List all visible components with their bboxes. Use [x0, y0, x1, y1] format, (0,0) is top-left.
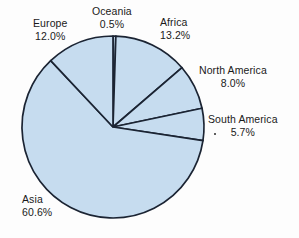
slice-label-africa: Africa 13.2% [160, 16, 190, 41]
slice-label-asia-name: Asia [22, 193, 52, 206]
slice-label-europe-name: Europe [33, 17, 67, 30]
slice-label-africa-percent: 13.2% [160, 29, 190, 42]
slice-label-europe-percent: 12.0% [33, 30, 67, 43]
slice-label-asia: Asia 60.6% [22, 193, 52, 218]
slice-label-africa-name: Africa [160, 16, 190, 29]
slice-label-north-america-percent: 8.0% [199, 77, 267, 90]
slice-label-south-america: South America 5.7% [208, 113, 278, 138]
slice-label-north-america-name: North America [199, 64, 267, 77]
scan-artifact-dot [214, 133, 216, 135]
slice-label-oceania: Oceania 0.5% [92, 5, 132, 30]
pie-slices-group [22, 36, 204, 218]
slice-label-europe: Europe 12.0% [33, 17, 67, 42]
slice-label-south-america-name: South America [208, 113, 278, 126]
slice-label-north-america: North America 8.0% [199, 64, 267, 89]
pie-chart-figure: Europe 12.0% Oceania 0.5% Africa 13.2% N… [0, 0, 299, 238]
slice-label-oceania-name: Oceania [92, 5, 132, 18]
slice-label-oceania-percent: 0.5% [92, 18, 132, 31]
slice-label-south-america-percent: 5.7% [208, 126, 278, 139]
slice-label-asia-percent: 60.6% [22, 206, 52, 219]
